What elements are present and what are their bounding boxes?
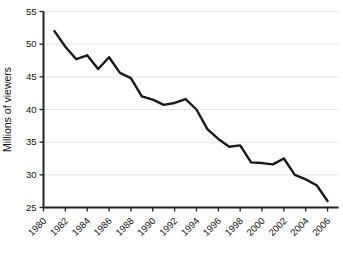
- y-tick-label-40: 40: [26, 104, 37, 115]
- chart-canvas: 25303540455055 1980198219841986198819901…: [0, 0, 343, 253]
- y-tick-label-45: 45: [26, 71, 37, 82]
- y-tick-label-50: 50: [26, 38, 37, 49]
- line-chart: 25303540455055 1980198219841986198819901…: [0, 0, 343, 253]
- y-tick-label-35: 35: [26, 136, 37, 147]
- y-tick-label-30: 30: [26, 169, 37, 180]
- y-tick-label-55: 55: [26, 6, 37, 17]
- y-axis-title: Millions of viewers: [1, 67, 13, 152]
- y-tick-label-25: 25: [26, 202, 37, 213]
